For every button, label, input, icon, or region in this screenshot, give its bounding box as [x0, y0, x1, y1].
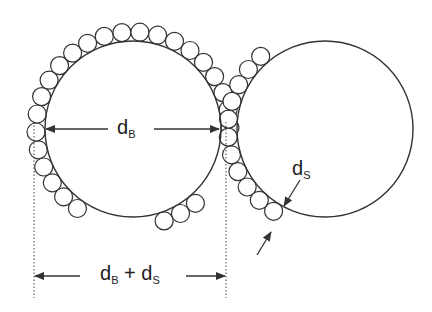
small-particle: [33, 88, 51, 106]
small-particle: [223, 92, 241, 110]
dS-arrow-top: [284, 180, 300, 206]
large-sphere-right: [237, 41, 413, 217]
small-particle: [219, 128, 237, 146]
label-dB: dB: [117, 116, 135, 140]
dS-arrow-bottom: [257, 232, 271, 255]
small-particle: [149, 26, 167, 44]
small-particle: [29, 141, 47, 159]
small-particle: [95, 27, 113, 45]
label-dB-plus-dS: dB + dS: [100, 262, 160, 286]
small-particle: [131, 23, 149, 41]
small-particle: [27, 123, 45, 141]
small-particle: [113, 24, 131, 42]
label-dS: dS: [292, 157, 310, 181]
small-particle: [223, 146, 241, 164]
small-particle: [220, 110, 238, 128]
small-particle: [155, 212, 173, 230]
diagram-canvas: [0, 0, 432, 312]
small-particles-right-sphere: [219, 47, 282, 220]
small-particle: [35, 158, 53, 176]
small-particle: [28, 105, 46, 123]
